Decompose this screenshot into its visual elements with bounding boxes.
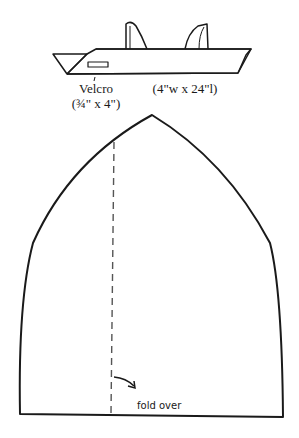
pattern-piece [20, 115, 283, 417]
fold-over-label: fold over [137, 400, 182, 411]
velcro-label: Velcro [79, 81, 113, 96]
pattern-outline [20, 115, 283, 417]
velcro-patch-icon [88, 62, 108, 67]
fold-line [111, 142, 114, 413]
fin-right [185, 24, 208, 49]
band-size-label: (4"w x 24"l) [153, 81, 218, 96]
fin-left [126, 22, 147, 49]
velcro-size-label: (¾" x 4") [72, 96, 121, 111]
fold-arrow-icon [114, 377, 135, 388]
diagram-canvas: Velcro (¾" x 4") (4"w x 24"l) fold over [0, 0, 299, 438]
headband-illustration [53, 22, 251, 81]
